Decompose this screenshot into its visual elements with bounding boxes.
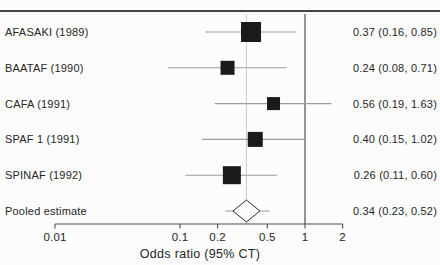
- study-label: SPINAF (1992): [5, 169, 82, 181]
- odds-ratio-square: [248, 132, 263, 147]
- study-estimate: 0.26 (0.11, 0.60): [354, 169, 437, 181]
- study-label: CAFA (1991): [5, 98, 70, 110]
- study-label: BAATAF (1990): [5, 62, 84, 74]
- study-label: SPAF 1 (1991): [5, 133, 80, 145]
- pooled-estimate: 0.34 (0.23, 0.52): [353, 205, 437, 217]
- study-estimate: 0.37 (0.16, 0.85): [353, 26, 437, 38]
- odds-ratio-square: [267, 97, 280, 110]
- odds-ratio-square: [223, 166, 241, 184]
- pooled-diamond: [233, 200, 260, 222]
- x-tick-label: 0.1: [172, 231, 189, 243]
- study-label: AFASAKI (1989): [5, 26, 89, 38]
- odds-ratio-square: [221, 61, 235, 75]
- odds-ratio-square: [241, 22, 261, 42]
- pooled-label: Pooled estimate: [5, 205, 87, 217]
- study-estimate: 0.56 (0.19, 1.63): [353, 98, 437, 110]
- x-tick-label: 0.01: [43, 231, 66, 243]
- x-tick-label: 0.2: [209, 231, 226, 243]
- x-tick-label: 1: [302, 231, 309, 243]
- x-tick-label: 2: [339, 231, 346, 243]
- x-tick-label: 0.5: [259, 231, 276, 243]
- study-estimate: 0.40 (0.15, 1.02): [353, 133, 437, 145]
- x-axis-title: Odds ratio (95% CT): [140, 247, 260, 261]
- study-estimate: 0.24 (0.08, 0.71): [353, 62, 437, 74]
